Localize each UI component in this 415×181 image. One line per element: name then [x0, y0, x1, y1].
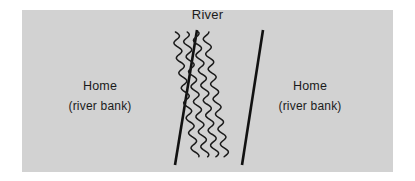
- left-bank-label-main: Home: [30, 80, 170, 93]
- river-title-label: River: [0, 8, 415, 21]
- right-bank-label: Home (river bank): [240, 80, 380, 112]
- river-waves-group: [174, 32, 229, 157]
- right-bank-label-sub: (river bank): [240, 100, 380, 112]
- left-bank-label: Home (river bank): [30, 80, 170, 112]
- right-bank-label-main: Home: [240, 80, 380, 93]
- left-bank-label-sub: (river bank): [30, 100, 170, 112]
- river-diagram: River Home (river bank) Home (river bank…: [0, 0, 415, 181]
